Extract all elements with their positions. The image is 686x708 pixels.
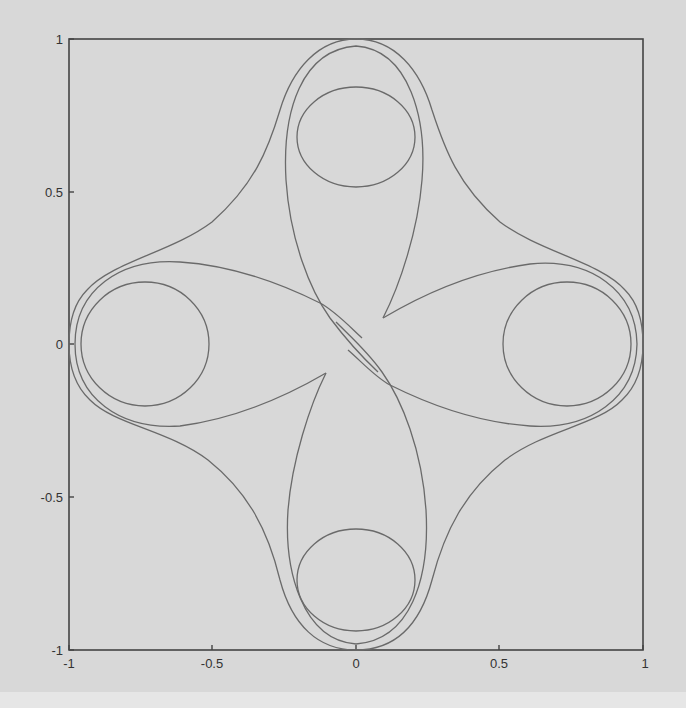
middle-petals — [75, 46, 637, 644]
x-tick-label: -0.5 — [201, 656, 223, 671]
inner-loop-bottom — [297, 529, 415, 631]
y-tick-label: 0.5 — [45, 185, 63, 200]
y-axis-labels: 1 0.5 0 -0.5 -1 — [41, 32, 63, 658]
inner-loops — [81, 87, 631, 631]
outer-envelope — [69, 39, 643, 650]
inner-loop-right — [503, 282, 631, 406]
x-tick-label: 0.5 — [490, 656, 508, 671]
inner-loop-top — [297, 87, 415, 187]
inner-loop-left — [81, 282, 209, 406]
y-tick-label: -0.5 — [41, 490, 63, 505]
petal-top — [286, 46, 423, 372]
plot-frame — [69, 39, 643, 650]
petal-bottom — [287, 322, 426, 644]
x-tick-label: 0 — [352, 656, 359, 671]
y-tick-label: -1 — [51, 643, 63, 658]
x-tick-label: 1 — [641, 656, 648, 671]
x-axis-labels: -1 -0.5 0 0.5 1 — [63, 656, 648, 671]
y-tick-label: 0 — [56, 337, 63, 352]
petal-left — [75, 262, 362, 427]
x-tick-label: -1 — [63, 656, 75, 671]
y-tick-label: 1 — [56, 32, 63, 47]
plot-svg: -1 -0.5 0 0.5 1 1 0.5 0 -0.5 -1 — [0, 0, 686, 708]
